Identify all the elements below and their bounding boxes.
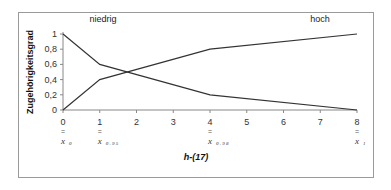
x-tick-label: 7 bbox=[318, 117, 323, 127]
y-tick-label: 0 bbox=[52, 105, 57, 115]
x-tick-label: 5 bbox=[244, 117, 249, 127]
annotation-x: x0 . 9 8 bbox=[207, 136, 229, 146]
x-tick-label: 1 bbox=[97, 117, 102, 127]
x-tick-label: 6 bbox=[281, 117, 286, 127]
y-axis-title: Zugehörigkeitsgrad bbox=[25, 30, 35, 114]
y-tick-label: 1 bbox=[52, 29, 57, 39]
x-tick-label: 2 bbox=[134, 117, 139, 127]
line-chart: 00,20,40,60,81012345678niedrighochZugehö… bbox=[0, 0, 391, 190]
x-tick-label: 3 bbox=[171, 117, 176, 127]
y-tick-label: 0,6 bbox=[44, 59, 57, 69]
series-label-niedrig: niedrig bbox=[89, 14, 116, 24]
chart-labels: 00,20,40,60,81012345678niedrighochZugehö… bbox=[25, 14, 366, 162]
series-line-hoch bbox=[63, 34, 357, 110]
annotation-x: x0 . 9 5 bbox=[97, 136, 119, 146]
chart-series bbox=[63, 34, 357, 110]
chart-axes bbox=[60, 32, 357, 113]
annotation-equals: = bbox=[208, 128, 212, 135]
annotation-equals: = bbox=[61, 128, 65, 135]
x-tick-label: 0 bbox=[60, 117, 65, 127]
y-tick-label: 0,4 bbox=[44, 75, 57, 85]
annotation-equals: = bbox=[98, 128, 102, 135]
annotation-equals: = bbox=[355, 128, 359, 135]
x-axis-title: h-(17) bbox=[184, 152, 209, 162]
annotation-x: x1 bbox=[354, 136, 366, 146]
series-label-hoch: hoch bbox=[310, 14, 330, 24]
x-tick-label: 4 bbox=[207, 117, 212, 127]
y-tick-label: 0,8 bbox=[44, 44, 57, 54]
series-line-niedrig bbox=[63, 34, 357, 110]
y-tick-label: 0,2 bbox=[44, 90, 57, 100]
x-tick-label: 8 bbox=[354, 117, 359, 127]
annotation-x: x0 bbox=[60, 136, 72, 146]
